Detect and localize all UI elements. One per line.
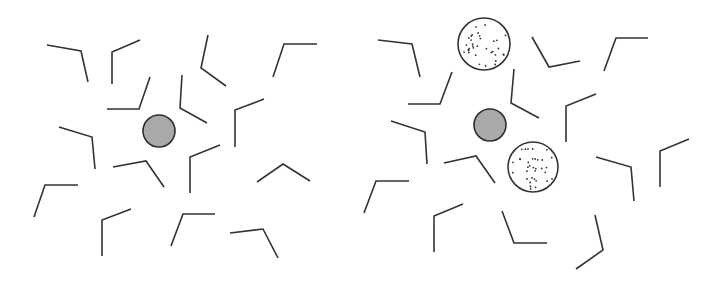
bent-molecule (596, 157, 634, 201)
particle-dot (475, 54, 477, 56)
particle-dot (535, 168, 537, 170)
particle-dot (526, 178, 528, 180)
particle-dot (466, 44, 468, 46)
particle-dot (527, 148, 529, 150)
particle-dot (535, 180, 537, 182)
bent-molecule (190, 145, 220, 193)
bent-molecule (408, 72, 452, 104)
particle-dot (475, 26, 477, 28)
bent-molecule (576, 215, 603, 269)
particle-dot (505, 35, 507, 37)
bent-molecule (230, 229, 278, 258)
particle-dot (472, 45, 474, 47)
particle-dot (480, 38, 482, 40)
bent-molecule (273, 44, 317, 77)
particle-dot (495, 54, 497, 56)
bent-molecule (660, 139, 689, 187)
particle-dot (472, 43, 474, 45)
dotted-particle (458, 18, 510, 70)
particle-dot (521, 148, 523, 150)
particle-dot (527, 162, 529, 164)
particle-dot (532, 148, 534, 150)
bent-molecule (566, 94, 596, 142)
particle-dot (479, 63, 481, 65)
particle-dot (527, 166, 529, 168)
bent-molecule (257, 164, 310, 182)
particle-dot (468, 37, 470, 39)
diagram-figure (0, 0, 717, 286)
particle-dot (534, 158, 536, 160)
particle-dot (530, 188, 532, 190)
particle-dot (495, 60, 497, 62)
particle-dot (532, 158, 534, 160)
particle-dot (485, 65, 487, 67)
bent-molecule (180, 75, 207, 123)
right-panel (364, 18, 689, 269)
particle-dot (541, 168, 543, 170)
bent-molecule (444, 156, 495, 183)
particle-dot (496, 39, 498, 41)
particle-dot (551, 178, 553, 180)
particle-dot (471, 34, 473, 36)
particle-dot (541, 159, 543, 161)
particle-dot (463, 51, 465, 53)
particle-dot (479, 35, 481, 37)
particle-dot (532, 167, 534, 169)
particle-dot (546, 167, 548, 169)
particle-dot (534, 170, 536, 172)
bent-molecule (34, 185, 78, 217)
particle-dot (493, 40, 495, 42)
particle-dot (526, 170, 528, 172)
particle-dot (470, 39, 472, 41)
particle-dot (546, 180, 548, 182)
particle-dot (494, 64, 496, 66)
particle-dot (498, 48, 500, 50)
bent-molecule (201, 35, 226, 86)
bent-molecule (434, 204, 463, 252)
bent-molecule (235, 99, 264, 147)
particle-dot (477, 32, 479, 34)
particle-dot (484, 24, 486, 26)
particle-dot (490, 52, 492, 54)
particle-dot (525, 148, 527, 150)
particle-dot (519, 158, 521, 160)
particle-dot (534, 178, 536, 180)
bent-molecule (391, 121, 427, 164)
particle-dot (551, 157, 553, 159)
bent-molecule (171, 214, 215, 246)
central-particle (143, 115, 175, 147)
particle-dot (503, 54, 505, 56)
particle-dot (529, 182, 531, 184)
bent-molecule (364, 181, 409, 213)
bent-molecule (112, 40, 140, 84)
particle-dot (546, 149, 548, 151)
bent-molecule (604, 38, 648, 71)
particle-dot (468, 49, 470, 51)
particle-dot (537, 159, 539, 161)
particle-dot (529, 165, 531, 167)
particle-dot (530, 186, 532, 188)
bent-molecule (47, 45, 88, 82)
particle-dot (531, 177, 533, 179)
bent-molecule (107, 77, 150, 109)
particle-dot (468, 52, 470, 54)
bent-molecule (511, 69, 539, 118)
central-particle (474, 109, 506, 141)
particle-dot (512, 161, 514, 163)
particle-dot (468, 48, 470, 50)
particle-dot (472, 47, 474, 49)
particle-dot (486, 48, 488, 50)
particle-dot (476, 45, 478, 47)
particle-dot (544, 171, 546, 173)
particle-dot (535, 186, 537, 188)
bent-molecule (502, 211, 547, 243)
molecular-solvation-diagram (0, 0, 717, 286)
bent-molecule (378, 40, 420, 77)
bent-molecule (532, 37, 580, 67)
particle-dot (512, 172, 514, 174)
left-panel (34, 35, 317, 258)
bent-molecule (113, 161, 164, 187)
bent-molecule (102, 209, 131, 256)
bent-molecule (59, 127, 95, 169)
